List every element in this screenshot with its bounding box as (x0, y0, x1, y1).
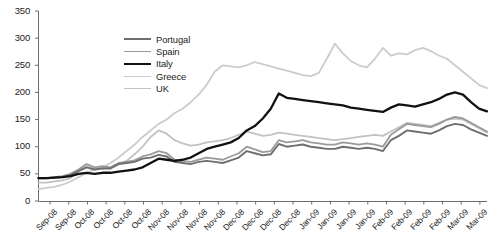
legend-label: Spain (156, 46, 179, 57)
data-series-group (39, 44, 488, 189)
legend-label: Portugal (156, 34, 190, 45)
chart-legend: PortugalSpainItalyGreeceUK (124, 33, 190, 95)
legend-item-greece[interactable]: Greece (124, 70, 190, 82)
legend-label: Greece (156, 71, 186, 82)
legend-swatch-spain-icon (124, 51, 151, 52)
y-axis-tick-label: 300 (2, 32, 30, 43)
y-axis-tick-label: 50 (2, 167, 30, 178)
y-axis-tick-label: 0 (2, 195, 30, 206)
y-axis-ticks (35, 11, 39, 201)
y-axis-tick-label: 250 (2, 59, 30, 70)
y-axis-tick-label: 350 (2, 5, 30, 16)
legend-item-spain[interactable]: Spain (124, 45, 190, 57)
y-axis-tick-label: 100 (2, 140, 30, 151)
legend-item-portugal[interactable]: Portugal (124, 33, 190, 45)
legend-swatch-greece-icon (124, 76, 151, 77)
series-line-portugal (39, 124, 488, 178)
legend-item-italy[interactable]: Italy (124, 58, 190, 70)
legend-label: Italy (156, 58, 173, 69)
legend-swatch-italy-icon (124, 63, 151, 65)
y-axis-tick-label: 150 (2, 113, 30, 124)
legend-item-uk[interactable]: UK (124, 83, 190, 95)
y-axis-tick-label: 200 (2, 86, 30, 97)
legend-swatch-portugal-icon (124, 38, 151, 40)
legend-label: UK (156, 83, 169, 94)
cds-spread-line-chart: 050100150200250300350 Sep-08Sep-08Oct-08… (0, 0, 495, 247)
legend-swatch-uk-icon (124, 88, 151, 89)
